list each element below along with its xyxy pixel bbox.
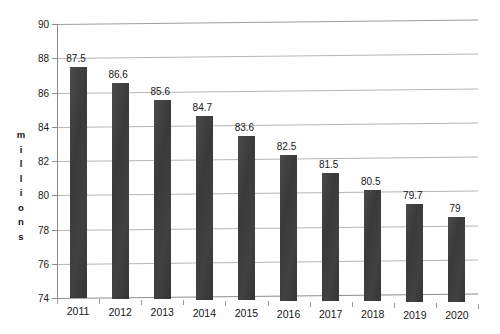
x-axis-tick-mark — [57, 299, 58, 304]
bar-value-label: 87.5 — [66, 53, 85, 64]
x-axis-tick-label: 2019 — [403, 309, 426, 321]
x-axis-tick-label: 2012 — [108, 306, 131, 318]
y-axis-title-letter: n — [14, 215, 28, 230]
bar-value-label: 79 — [449, 203, 460, 214]
bar — [322, 173, 339, 301]
x-axis-tick-mark — [478, 304, 479, 309]
bar — [196, 116, 213, 299]
y-axis-tick-label: 82 — [27, 156, 49, 167]
bar-value-label: 81.5 — [319, 159, 338, 170]
bar-chart: m i l l i o n s 90888684828078767487.520… — [0, 0, 500, 334]
x-axis-tick-label: 2020 — [445, 309, 468, 321]
y-axis-tick-mark — [52, 195, 58, 196]
y-axis-tick-label: 90 — [27, 19, 49, 30]
bar-value-label: 86.6 — [108, 69, 127, 80]
x-axis-tick-label: 2018 — [361, 308, 384, 320]
bar-value-label: 85.6 — [151, 86, 170, 97]
x-axis-tick-label: 2014 — [193, 307, 216, 319]
bar-value-label: 84.7 — [193, 102, 212, 113]
y-axis-tick-label: 76 — [27, 258, 49, 269]
y-axis-title-letter: o — [14, 201, 28, 216]
y-axis-tick-label: 78 — [27, 224, 49, 235]
bar — [238, 136, 255, 300]
x-axis-tick-mark — [141, 300, 142, 305]
y-axis-tick-label: 80 — [27, 190, 49, 201]
y-axis-tick-mark — [52, 127, 58, 128]
bar — [448, 217, 465, 303]
y-axis-tick-mark — [52, 264, 58, 265]
bar — [280, 155, 297, 301]
x-axis-tick-label: 2016 — [277, 308, 300, 320]
bar — [154, 100, 171, 299]
bar-value-label: 83.6 — [235, 122, 254, 133]
y-axis-tick-label: 84 — [27, 121, 49, 132]
bar — [364, 190, 381, 301]
y-axis-tick-mark — [52, 58, 58, 59]
y-axis-tick-label: 86 — [27, 87, 49, 98]
x-axis-tick-label: 2015 — [235, 307, 258, 319]
x-axis-tick-label: 2017 — [319, 308, 342, 320]
gridline — [57, 19, 478, 25]
x-axis-tick-mark — [268, 301, 269, 306]
bar-value-label: 82.5 — [277, 141, 296, 152]
bar — [70, 67, 87, 298]
bar-value-label: 80.5 — [361, 176, 380, 187]
y-axis-title-letter: i — [14, 186, 28, 201]
bar — [112, 83, 129, 299]
x-axis-tick-mark — [352, 302, 353, 307]
bar-value-label: 79.7 — [403, 190, 422, 201]
y-axis-title-letter: l — [14, 172, 28, 187]
y-axis-title: m i l l i o n s — [14, 128, 28, 244]
x-axis-tick-label: 2013 — [151, 306, 174, 318]
y-axis-tick-mark — [52, 161, 58, 162]
y-axis-title-letter: l — [14, 157, 28, 172]
x-axis-tick-mark — [225, 301, 226, 306]
y-axis-title-letter: s — [14, 230, 28, 245]
x-axis-tick-mark — [436, 303, 437, 308]
gridline — [57, 54, 478, 60]
y-axis-tick-mark — [52, 24, 58, 25]
y-axis-title-letter: i — [14, 143, 28, 158]
x-axis-tick-label: 2011 — [67, 305, 90, 317]
x-axis-tick-mark — [99, 299, 100, 304]
y-axis-tick-label: 88 — [27, 53, 49, 64]
bar — [406, 204, 423, 302]
y-axis-tick-mark — [52, 93, 58, 94]
x-axis-tick-mark — [394, 303, 395, 308]
y-axis-title-letter: m — [14, 128, 28, 143]
y-axis-tick-mark — [52, 230, 58, 231]
x-axis-tick-mark — [183, 300, 184, 305]
y-axis-tick-label: 74 — [27, 293, 49, 304]
x-axis-tick-mark — [310, 302, 311, 307]
